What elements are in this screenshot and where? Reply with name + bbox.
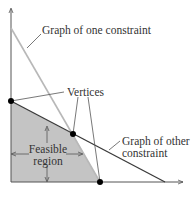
vertices-leader-2 <box>73 97 78 134</box>
other-constraint-label-line2: constraint <box>122 147 168 159</box>
feasible-label-line1: Feasible <box>29 143 67 155</box>
constraint-one-label: Graph of one constraint <box>42 24 152 37</box>
other-constraint-leader <box>109 141 120 150</box>
vertex-3 <box>97 179 103 185</box>
feasible-label-line2: region <box>33 155 63 168</box>
vertex-1 <box>8 98 14 104</box>
vertex-2 <box>70 131 76 137</box>
vertices-label: Vertices <box>67 86 105 98</box>
vertices-leader-1 <box>11 92 64 101</box>
constraint-one-leader <box>27 34 41 48</box>
linear-programming-diagram: Graph of one constraint Vertices Feasibl… <box>0 0 192 197</box>
